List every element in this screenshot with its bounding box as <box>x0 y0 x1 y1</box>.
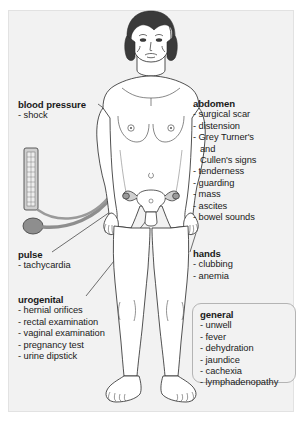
label-general-item-3: - jaundice <box>200 355 278 366</box>
label-general-item-4: - cachexia <box>200 366 278 377</box>
label-urogenital-item-1: - rectal examination <box>18 317 105 328</box>
uterus-body <box>137 190 166 212</box>
label-abdomen-item-5: - mass <box>193 189 256 200</box>
foot-left <box>161 376 196 402</box>
eye-right <box>140 38 146 42</box>
label-blood-pressure: blood pressure - shock <box>18 99 86 122</box>
nipple-right-dot <box>130 127 132 129</box>
label-general-item-0: - unwell <box>200 320 278 331</box>
label-blood-pressure-item-0: - shock <box>18 110 86 121</box>
label-urogenital: urogenital - hernial orifices - rectal e… <box>18 294 105 362</box>
label-urogenital-item-4: - urine dipstick <box>18 351 105 362</box>
label-pulse-item-0: - tachycardia <box>18 260 71 271</box>
label-hands-item-1: - anemia <box>193 271 233 282</box>
label-hands: hands - clubbing - anemia <box>193 248 233 282</box>
inflation-bulb <box>23 218 43 234</box>
label-urogenital-item-0: - hernial orifices <box>18 305 105 316</box>
label-hands-item-0: - clubbing <box>193 259 233 270</box>
label-abdomen-item-7: - bowel sounds <box>193 212 256 223</box>
label-abdomen-heading: abdomen <box>193 98 256 109</box>
label-urogenital-heading: urogenital <box>18 294 105 305</box>
label-abdomen-item-1: - distension <box>193 121 256 132</box>
label-abdomen-item-0: - surgical scar <box>193 109 256 120</box>
label-general-item-5: - lymphadenopathy <box>200 377 278 388</box>
leg-right <box>113 226 150 376</box>
general-findings-box: general - unwell - fever - dehydration -… <box>192 303 296 383</box>
label-abdomen-item-3: - tenderness <box>193 166 256 177</box>
diagram-page: blood pressure - shock pulse - tachycard… <box>0 0 302 432</box>
label-general-item-1: - fever <box>200 332 278 343</box>
ovary-right <box>123 193 130 199</box>
label-general: general - unwell - fever - dehydration -… <box>200 309 278 389</box>
eye-left <box>156 38 162 42</box>
tubing-manometer <box>38 198 108 219</box>
label-hands-heading: hands <box>193 248 233 259</box>
label-general-heading: general <box>200 309 278 320</box>
label-pulse-heading: pulse <box>18 249 71 260</box>
label-abdomen-item-2: - Grey Turner's <box>193 132 256 143</box>
label-abdomen-item-4: - guarding <box>193 178 256 189</box>
foot-right <box>106 376 141 402</box>
label-abdomen: abdomen - surgical scar - distension - G… <box>193 98 256 223</box>
label-urogenital-item-3: - pregnancy test <box>18 340 105 351</box>
label-pulse: pulse - tachycardia <box>18 249 71 272</box>
leg-left <box>152 226 189 376</box>
ovary-left <box>173 193 180 199</box>
label-blood-pressure-heading: blood pressure <box>18 99 86 110</box>
cervix-vagina <box>145 212 157 226</box>
label-general-item-2: - dehydration <box>200 343 278 354</box>
label-abdomen-continuation-2: Cullen's signs <box>193 155 256 166</box>
label-urogenital-item-2: - vaginal examination <box>18 328 105 339</box>
nipple-left-dot <box>170 127 172 129</box>
label-abdomen-item-6: - ascites <box>193 201 256 212</box>
label-abdomen-continuation-1: and <box>193 144 256 155</box>
tubing-bulb <box>43 196 112 227</box>
